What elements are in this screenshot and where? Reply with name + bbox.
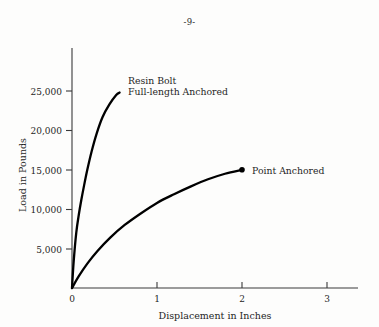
load-displacement-chart: 25,000 20,000 15,000 10,000 5,000 0 1 2 … (0, 0, 379, 327)
y-tick-label-25000: 25,000 (31, 87, 63, 97)
series-curve-resin-bolt (72, 93, 120, 288)
x-tick-label-0: 0 (69, 294, 75, 304)
y-tick-label-15000: 15,000 (31, 166, 63, 176)
annotation-point-anchored: Point Anchored (252, 165, 325, 176)
x-axis-title: Displacement in Inches (159, 310, 272, 321)
x-tick-label-2: 2 (239, 294, 245, 304)
y-tick-label-10000: 10,000 (31, 205, 63, 215)
y-tick-label-20000: 20,000 (31, 126, 63, 136)
series-curve-point-anchored (72, 170, 242, 288)
x-tick-label-3: 3 (324, 294, 330, 304)
annotation-resin-bolt-line1: Resin Bolt (128, 75, 177, 86)
scanned-page: -9- 25,000 20,000 15,000 10,000 5,000 0 (0, 0, 379, 327)
chart-svg: 25,000 20,000 15,000 10,000 5,000 0 1 2 … (0, 0, 379, 327)
y-axis-title: Load in Pounds (17, 138, 28, 212)
annotation-resin-bolt-line2: Full-length Anchored (128, 86, 228, 97)
x-tick-label-1: 1 (154, 294, 160, 304)
y-tick-label-5000: 5,000 (36, 245, 62, 255)
point-anchored-end-marker (239, 167, 245, 173)
